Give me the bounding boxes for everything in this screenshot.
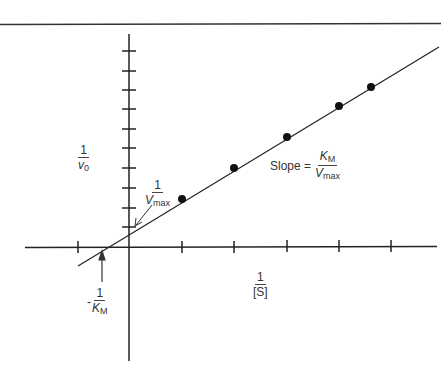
y-axis-label-numerator: 1 xyxy=(78,144,89,158)
data-points xyxy=(178,83,375,203)
y-intercept-subscript: max xyxy=(153,198,170,208)
x-intercept-subscript: M xyxy=(100,306,108,316)
slope-numerator-variable: K xyxy=(320,149,328,163)
slope-numerator-subscript: M xyxy=(328,154,336,164)
data-point xyxy=(283,133,291,141)
data-point xyxy=(230,164,238,172)
top-rule xyxy=(0,24,441,25)
slope-denominator-variable: V xyxy=(315,166,323,180)
x-axis-label-denominator: [S] xyxy=(253,285,268,298)
x-intercept-label: - 1 KM xyxy=(87,287,108,316)
x-axis-label-numerator: 1 xyxy=(255,271,266,285)
y-axis-label-subscript: 0 xyxy=(84,163,89,173)
slope-label: Slope = KM Vmax xyxy=(270,150,340,181)
data-point xyxy=(367,83,375,91)
data-point xyxy=(178,195,186,203)
x-intercept-numerator: 1 xyxy=(94,287,105,301)
plot-canvas xyxy=(0,0,447,374)
x-axis-label: 1 [S] xyxy=(253,271,268,298)
y-intercept-numerator: 1 xyxy=(152,179,163,193)
y-intercept-label: 1 Vmax xyxy=(145,179,170,208)
slope-text: Slope = xyxy=(270,160,311,172)
y-axis-label: 1 v0 xyxy=(78,144,89,173)
x-intercept-minus: - xyxy=(87,296,91,308)
x-intercept-arrow xyxy=(99,251,105,282)
slope-denominator-subscript: max xyxy=(323,171,340,181)
data-point xyxy=(335,102,343,110)
x-axis xyxy=(25,247,437,248)
x-intercept-variable: K xyxy=(92,301,100,315)
fit-line xyxy=(78,47,439,266)
y-intercept-variable: V xyxy=(145,193,153,207)
